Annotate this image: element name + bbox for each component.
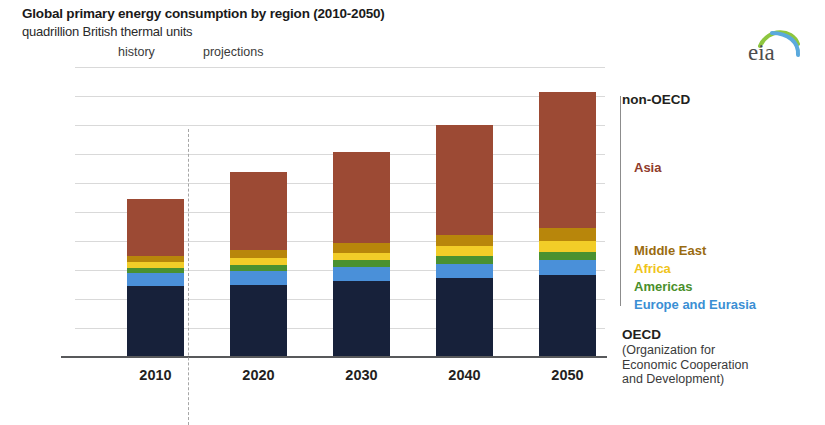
legend: non-OECD Asia Middle East Africa America… bbox=[612, 63, 822, 363]
bar-segment-africa bbox=[539, 241, 596, 252]
svg-text:eia: eia bbox=[748, 40, 775, 65]
legend-oecd-expansion: (Organization for Economic Cooperation a… bbox=[622, 343, 748, 387]
page-title: Global primary energy consumption by reg… bbox=[22, 6, 385, 21]
bar-segment-americas bbox=[539, 252, 596, 261]
oecd-expansion-line-3: and Development) bbox=[622, 372, 748, 387]
bar-segment-asia bbox=[539, 92, 596, 228]
bar-segment-middle-east bbox=[230, 250, 287, 258]
bar-segment-americas bbox=[436, 256, 493, 264]
legend-item-non-oecd: non-OECD bbox=[622, 92, 690, 107]
legend-item-middle-east: Middle East bbox=[634, 243, 706, 258]
projections-label: projections bbox=[203, 45, 263, 59]
x-label-2040: 2040 bbox=[436, 367, 493, 383]
bar-segment-americas bbox=[333, 260, 390, 267]
bar-segment-africa bbox=[436, 246, 493, 255]
bar-segment-americas bbox=[230, 265, 287, 272]
x-label-2030: 2030 bbox=[333, 367, 390, 383]
legend-item-europe-and-eurasia: Europe and Eurasia bbox=[634, 297, 756, 312]
bar-2050[interactable] bbox=[539, 92, 596, 356]
bar-segment-oecd bbox=[539, 275, 596, 356]
eia-logo: eia bbox=[742, 24, 804, 68]
oecd-expansion-line-1: (Organization for bbox=[622, 343, 748, 358]
bar-segment-europe-and-eurasia bbox=[539, 260, 596, 275]
bar-segment-oecd bbox=[127, 286, 184, 356]
bar-2040[interactable] bbox=[436, 125, 493, 356]
non-oecd-bracket bbox=[620, 96, 621, 306]
bar-segment-europe-and-eurasia bbox=[230, 271, 287, 285]
x-label-2020: 2020 bbox=[230, 367, 287, 383]
bar-segment-oecd bbox=[436, 278, 493, 356]
bar-segment-middle-east bbox=[436, 235, 493, 246]
bar-segment-asia bbox=[127, 199, 184, 256]
x-label-2050: 2050 bbox=[539, 367, 596, 383]
oecd-expansion-line-2: Economic Cooperation bbox=[622, 358, 748, 373]
bar-segment-europe-and-eurasia bbox=[436, 264, 493, 279]
bar-segment-europe-and-eurasia bbox=[127, 273, 184, 286]
x-label-2010: 2010 bbox=[127, 367, 184, 383]
legend-item-americas: Americas bbox=[634, 279, 693, 294]
bar-segment-oecd bbox=[230, 285, 287, 356]
legend-item-asia: Asia bbox=[634, 160, 661, 175]
history-label: history bbox=[118, 45, 155, 59]
bar-segment-africa bbox=[333, 253, 390, 261]
x-axis-line bbox=[61, 356, 607, 358]
bar-segment-middle-east bbox=[333, 243, 390, 253]
bar-2010[interactable] bbox=[127, 199, 184, 356]
bar-2030[interactable] bbox=[333, 152, 390, 356]
legend-item-oecd: OECD bbox=[622, 327, 661, 342]
bar-segment-europe-and-eurasia bbox=[333, 267, 390, 281]
bar-2020[interactable] bbox=[230, 172, 287, 356]
bar-segment-asia bbox=[230, 172, 287, 250]
plot-area: 1,000 900 800 700 600 500 400 300 200 10… bbox=[75, 67, 605, 357]
bar-segment-middle-east bbox=[539, 228, 596, 241]
legend-item-africa: Africa bbox=[634, 261, 671, 276]
chart-subtitle: quadrillion British thermal units bbox=[22, 24, 192, 39]
bar-segment-oecd bbox=[333, 281, 390, 356]
bar-segment-asia bbox=[436, 125, 493, 236]
bar-segment-asia bbox=[333, 152, 390, 243]
history-projection-divider bbox=[188, 129, 189, 425]
